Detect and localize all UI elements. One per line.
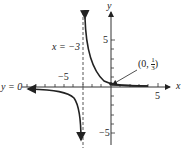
curve-left-branch [30,89,81,140]
x-tick-label-5: 5 [155,91,160,101]
point-annotation: (0, 13) [138,57,158,72]
curve-right-branch [85,18,148,86]
vertical-asymptote-label: x = −3 [52,42,80,52]
annotation-pointer [113,70,137,84]
y-tick-label-neg5: −5 [99,128,110,138]
point-0-1-3 [109,82,113,86]
horizontal-asymptote-label: y = 0 [1,82,22,92]
graph-canvas [0,0,188,149]
x-tick-label-neg5: −5 [58,72,69,82]
y-tick-label-5: 5 [103,35,108,45]
y-axis-label: y [107,1,111,11]
x-axis-label: x [176,81,180,91]
